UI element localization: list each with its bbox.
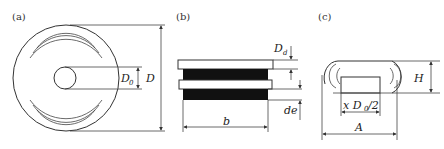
svg-text:d: d: [283, 49, 288, 57]
xd0-label: x D: [343, 99, 362, 112]
winding-block: [183, 89, 268, 100]
panel-c-label: (c): [318, 11, 332, 22]
a-label: A: [354, 121, 363, 134]
h-label: H: [413, 72, 424, 85]
svg-text:/2: /2: [367, 99, 379, 112]
b-label: b: [223, 115, 230, 128]
plate: [179, 80, 272, 89]
technical-diagram: (a) D 0 D (b) D d: [0, 0, 444, 149]
winding-arc: [33, 36, 99, 53]
panel-a: (a) D 0 D: [12, 11, 165, 131]
winding-arc: [30, 39, 102, 58]
inner-window: [341, 77, 380, 93]
center-hole: [54, 67, 76, 89]
winding-arc: [30, 100, 102, 119]
panel-a-label: (a): [12, 11, 26, 22]
winding-arc: [33, 105, 99, 122]
winding-block: [183, 69, 268, 80]
svg-text:0: 0: [129, 79, 134, 87]
de-label: de: [284, 104, 298, 117]
plate: [178, 60, 273, 69]
outer-circle: [13, 25, 119, 131]
d-label: D: [145, 72, 155, 85]
panel-b-label: (b): [176, 11, 190, 22]
panel-b: (b) D d de b: [176, 11, 302, 132]
dd-label: D: [273, 42, 283, 55]
panel-c: (c) H x D 0 /2 A: [318, 11, 440, 140]
